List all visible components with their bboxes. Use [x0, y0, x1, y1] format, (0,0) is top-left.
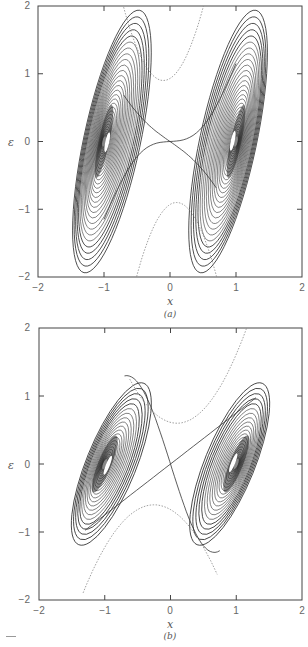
panel-caption: (b)	[155, 631, 185, 641]
y-tick: −2	[6, 595, 30, 605]
y-axis-label: ε	[8, 136, 14, 149]
x-tick: 1	[226, 283, 246, 293]
y-axis-label: ε	[8, 459, 14, 472]
x-tick: −1	[94, 283, 114, 293]
contour-plot-a	[0, 0, 308, 320]
x-tick: −1	[95, 606, 115, 616]
x-tick: 1	[226, 606, 246, 616]
stray-mark	[6, 636, 16, 637]
y-tick: 1	[6, 69, 30, 79]
x-tick: −2	[29, 606, 49, 616]
x-axis-label: x	[167, 295, 173, 308]
x-tick: −2	[28, 283, 48, 293]
x-tick: 0	[160, 283, 180, 293]
y-tick: 2	[6, 1, 30, 11]
x-axis-label: x	[167, 618, 173, 631]
x-tick: 2	[292, 606, 308, 616]
panel-caption: (a)	[155, 309, 185, 319]
y-tick: −1	[6, 528, 30, 538]
y-tick: 2	[6, 323, 30, 333]
x-tick: 0	[160, 606, 180, 616]
panel-b: 2 1 0 −1 −2 −2 −1 0 1 2 ε x (b)	[0, 320, 308, 647]
panel-a: 2 1 0 −1 −2 −2 −1 0 1 2 ε x (a)	[0, 0, 308, 320]
y-tick: 1	[6, 392, 30, 402]
contour-plot-b	[0, 320, 308, 647]
y-tick: −2	[6, 272, 30, 282]
x-tick: 2	[292, 283, 308, 293]
y-tick: −1	[6, 205, 30, 215]
